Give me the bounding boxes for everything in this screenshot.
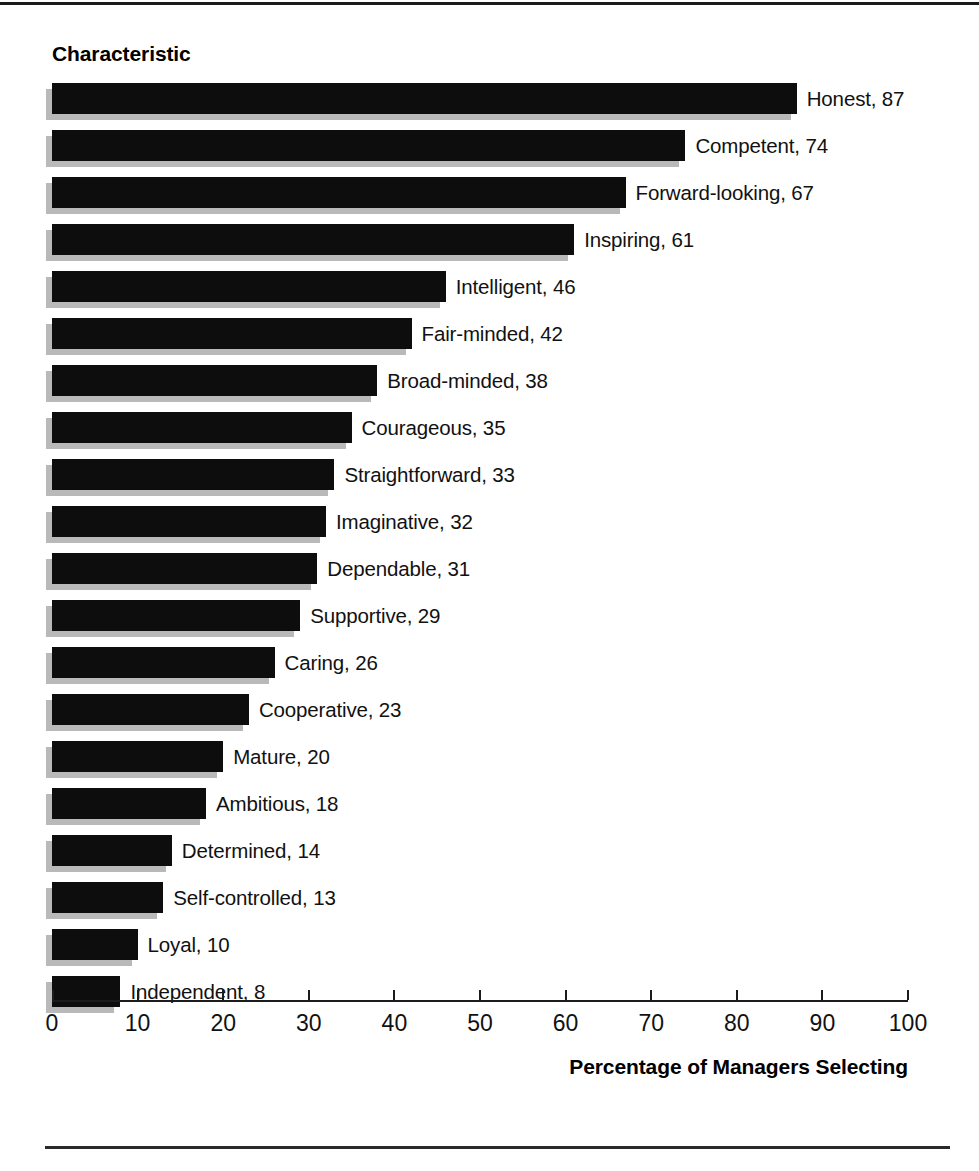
bar-data-label: Straightforward, 33 [344,463,514,487]
bar-row: Loyal, 10 [52,929,138,960]
bar-data-label: Courageous, 35 [362,416,506,440]
axis-tick [907,990,909,1000]
bar-row: Fair-minded, 42 [52,318,412,349]
value-axis-title: Percentage of Managers Selecting [569,1055,908,1079]
bar [52,271,446,302]
bar-row: Courageous, 35 [52,412,352,443]
bar-row: Ambitious, 18 [52,788,206,819]
bar-row: Independent, 8 [52,976,120,1007]
axis-tick-label: 70 [638,1010,664,1037]
bar-row: Intelligent, 46 [52,271,446,302]
bar-data-label: Competent, 74 [695,134,828,158]
bar-row: Cooperative, 23 [52,694,249,725]
bar-row: Honest, 87 [52,83,797,114]
bar [52,976,120,1007]
bar [52,788,206,819]
axis-tick-label: 60 [553,1010,579,1037]
x-axis-line [52,1000,908,1002]
axis-tick [565,990,567,1000]
bar-data-label: Mature, 20 [233,745,330,769]
bar-row: Straightforward, 33 [52,459,334,490]
axis-tick [393,990,395,1000]
bar [52,600,300,631]
bar-data-label: Dependable, 31 [327,557,470,581]
bar [52,177,626,208]
axis-tick-label: 30 [296,1010,322,1037]
axis-tick [222,990,224,1000]
bar-data-label: Caring, 26 [285,651,378,675]
bar [52,412,352,443]
bar [52,835,172,866]
axis-tick-label: 0 [46,1010,59,1037]
axis-tick [650,990,652,1000]
bar-data-label: Loyal, 10 [148,933,230,957]
axis-tick [736,990,738,1000]
category-axis-title: Characteristic [52,42,191,66]
bar-row: Supportive, 29 [52,600,300,631]
bar [52,647,275,678]
bar-chart-figure: Characteristic Honest, 87Competent, 74Fo… [0,0,979,1171]
axis-tick [308,990,310,1000]
bar-row: Self-controlled, 13 [52,882,163,913]
top-divider-rule [0,2,979,5]
bar-row: Forward-looking, 67 [52,177,626,208]
bar [52,318,412,349]
bar [52,224,574,255]
bar [52,694,249,725]
bar-row: Inspiring, 61 [52,224,574,255]
axis-tick [821,990,823,1000]
axis-tick-label: 100 [889,1010,927,1037]
bar-data-label: Self-controlled, 13 [173,886,335,910]
bar-data-label: Forward-looking, 67 [636,181,814,205]
axis-tick-label: 10 [125,1010,151,1037]
bar-data-label: Imaginative, 32 [336,510,473,534]
axis-tick-label: 90 [810,1010,836,1037]
bar [52,553,317,584]
axis-tick-label: 50 [467,1010,493,1037]
bar [52,83,797,114]
bar [52,459,334,490]
bar-row: Broad-minded, 38 [52,365,377,396]
axis-tick [137,990,139,1000]
bar [52,741,223,772]
axis-tick-start [52,990,54,1000]
plot-area: Honest, 87Competent, 74Forward-looking, … [52,83,908,998]
bar-data-label: Inspiring, 61 [584,228,694,252]
bar [52,882,163,913]
bottom-divider-rule [45,1146,950,1149]
axis-tick [479,990,481,1000]
bar-data-label: Intelligent, 46 [456,275,576,299]
bar [52,506,326,537]
bar-row: Mature, 20 [52,741,223,772]
bar-data-label: Determined, 14 [182,839,320,863]
axis-tick-label: 80 [724,1010,750,1037]
bar-data-label: Fair-minded, 42 [422,322,563,346]
bar-data-label: Supportive, 29 [310,604,440,628]
bar [52,130,685,161]
bar-data-label: Honest, 87 [807,87,905,111]
bar-data-label: Broad-minded, 38 [387,369,548,393]
axis-tick-label: 20 [210,1010,236,1037]
bar-row: Dependable, 31 [52,553,317,584]
bar-data-label: Ambitious, 18 [216,792,338,816]
bar-row: Determined, 14 [52,835,172,866]
bar-row: Caring, 26 [52,647,275,678]
bar-data-label: Cooperative, 23 [259,698,401,722]
bar [52,365,377,396]
bar-row: Imaginative, 32 [52,506,326,537]
axis-tick-label: 40 [382,1010,408,1037]
bar-row: Competent, 74 [52,130,685,161]
bar [52,929,138,960]
